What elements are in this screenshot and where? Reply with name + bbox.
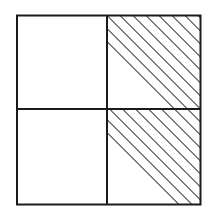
hatch-line	[95, 107, 195, 207]
grid-cell	[79, 14, 216, 112]
fraction-grid-diagram	[0, 0, 216, 217]
hatch-line	[121, 107, 217, 207]
hatch-line	[79, 14, 177, 112]
hatch-line	[212, 107, 217, 207]
grid-cell	[82, 107, 217, 207]
hatch-line	[131, 14, 216, 112]
hatch-line	[82, 107, 182, 207]
hatch-line	[209, 14, 216, 112]
hatch-line	[157, 14, 216, 112]
hatch-line	[108, 107, 208, 207]
hatch-line	[105, 14, 203, 112]
hatch-line	[196, 14, 216, 112]
